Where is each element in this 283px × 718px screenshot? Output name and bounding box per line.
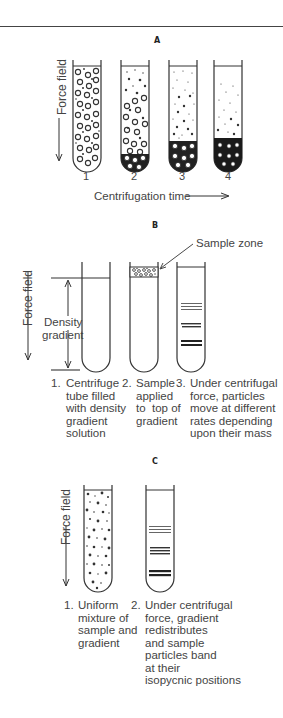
band-light (149, 526, 171, 533)
centrifugation-time-label: Centrifugation time (94, 190, 191, 203)
tube-number-2: 2 (131, 170, 137, 182)
density-label-line1: Density (44, 316, 82, 329)
step-b1-number: 1. (51, 377, 61, 390)
tube-1 (73, 60, 101, 172)
tube-c2 (146, 485, 174, 592)
density-label-line2: gradient (42, 329, 84, 342)
tube-b2 (130, 262, 158, 372)
panel-a-force-arrow (56, 118, 62, 161)
tube-number-4: 4 (225, 170, 231, 182)
panel-c-label: C (152, 457, 158, 466)
step-b3-number: 3. (176, 377, 186, 390)
step-c1-text: Uniform mixture of sample and gradient (78, 599, 137, 649)
band-medium (150, 547, 170, 554)
tube-number-3: 3 (179, 170, 185, 182)
step-c2-number: 2. (131, 599, 141, 612)
step-c1-number: 1. (64, 599, 74, 612)
tube-2 (121, 60, 149, 172)
step-b3-text: Under centrifugal force, particles move … (190, 377, 278, 440)
tube-b3 (177, 262, 205, 372)
panel-b-label: B (152, 221, 158, 230)
tube-3 (169, 60, 197, 172)
band-heavy (181, 340, 202, 346)
band-medium (181, 323, 201, 327)
tube-4 (214, 60, 242, 172)
step-b2-number: 2. (122, 377, 132, 390)
step-b1-text: Centrifuge tube filled with density grad… (66, 377, 126, 440)
tube-c1 (84, 485, 112, 592)
centrifugation-time-arrow (186, 193, 229, 199)
panel-b-force-field-label: Force field (21, 270, 35, 326)
band-heavy (149, 570, 171, 576)
panel-c-force-field-label: Force field (59, 489, 73, 545)
step-b2-text: Sample applied to top of gradient (136, 377, 181, 427)
band-light (181, 303, 202, 310)
tube-number-1: 1 (83, 170, 89, 182)
step-c2-text: Under centrifugal force, gradient redist… (145, 599, 241, 687)
sample-zone-label: Sample zone (196, 237, 263, 250)
